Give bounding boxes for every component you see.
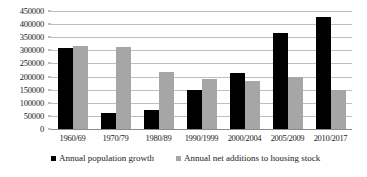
bar-chart: 4500004000003500003000002500002000001500… — [0, 0, 367, 177]
chart-legend: Annual population growthAnnual net addit… — [51, 151, 361, 165]
bar[interactable] — [73, 46, 88, 129]
bar[interactable] — [58, 48, 73, 129]
x-axis-tick-label: 2010/2017 — [309, 132, 352, 146]
legend-item-label: Annual population growth — [59, 153, 154, 164]
bar-group — [137, 11, 180, 129]
legend-swatch-icon — [176, 156, 181, 161]
bar-group — [266, 11, 309, 129]
bar-group — [223, 11, 266, 129]
y-axis-tick-label: 250000 — [20, 59, 44, 68]
x-axis-tick-label: 1980/89 — [137, 132, 180, 146]
legend-item-label: Annual net additions to housing stock — [184, 153, 320, 164]
bar-group — [180, 11, 223, 129]
x-axis-tick-label: 1960/69 — [51, 132, 94, 146]
x-axis-tick-label: 1990/1999 — [180, 132, 223, 146]
y-axis-tick-label: 350000 — [20, 33, 44, 42]
x-axis-tick-label: 2005/2009 — [266, 132, 309, 146]
bar-group — [51, 11, 94, 129]
y-axis-tick-label: 200000 — [20, 72, 44, 81]
y-axis: 4500004000003500003000002500002000001500… — [0, 11, 48, 129]
y-axis-tick-label: 50000 — [24, 112, 44, 121]
bar[interactable] — [288, 77, 303, 129]
legend-item[interactable]: Annual net additions to housing stock — [176, 153, 320, 164]
y-axis-tick-label: 400000 — [20, 20, 44, 29]
bar[interactable] — [316, 17, 331, 129]
legend-item[interactable]: Annual population growth — [51, 153, 154, 164]
bars-layer — [51, 11, 352, 129]
y-axis-tick-label: 150000 — [20, 85, 44, 94]
bar[interactable] — [202, 79, 217, 129]
y-axis-tick-label: 300000 — [20, 46, 44, 55]
bar[interactable] — [273, 33, 288, 129]
bar[interactable] — [187, 90, 202, 129]
bar[interactable] — [116, 47, 131, 129]
bar-group — [94, 11, 137, 129]
bar[interactable] — [144, 110, 159, 129]
x-axis-tick-label: 1970/79 — [94, 132, 137, 146]
y-axis-tick-label: 100000 — [20, 99, 44, 108]
bar[interactable] — [101, 113, 116, 129]
bar-group — [309, 11, 352, 129]
axis-baseline — [51, 129, 352, 130]
y-axis-tick-label: 450000 — [20, 7, 44, 16]
bar[interactable] — [230, 73, 245, 129]
bar[interactable] — [245, 81, 260, 130]
x-axis-tick-label: 2000/2004 — [223, 132, 266, 146]
x-axis: 1960/691970/791980/891990/19992000/20042… — [51, 132, 352, 146]
bar[interactable] — [331, 90, 346, 129]
y-axis-tick-label: 0 — [40, 125, 44, 134]
bar[interactable] — [159, 72, 174, 129]
legend-swatch-icon — [51, 156, 56, 161]
